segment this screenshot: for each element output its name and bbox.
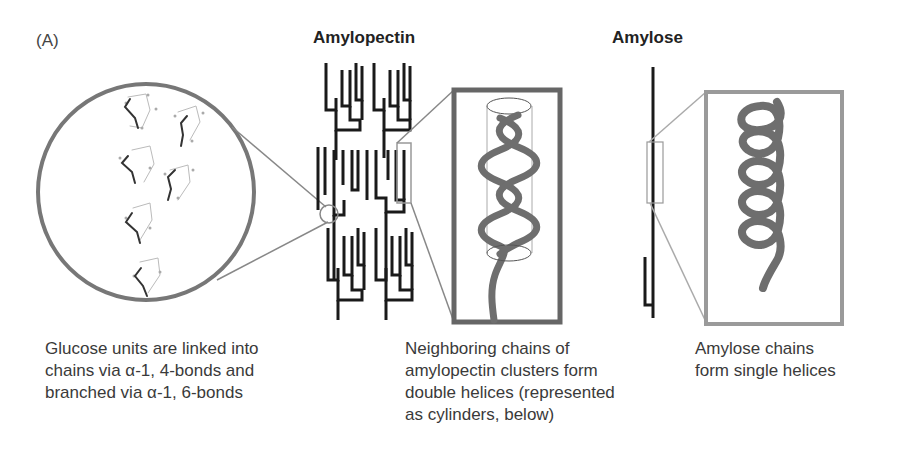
- amylopectin-chains: [318, 63, 412, 320]
- double-helix-caption: Neighboring chains of amylopectin cluste…: [405, 338, 685, 426]
- single-helix-zoom-marker: [647, 142, 663, 203]
- double-helix-panel: [454, 90, 560, 322]
- single-helix-panel: [706, 92, 842, 324]
- amylose-caption: Amylose chains form single helices: [695, 338, 895, 382]
- amylose-chain: [645, 67, 653, 318]
- glucose-caption: Glucose units are linked into chains via…: [45, 338, 345, 404]
- glucose-molecule-icon: [119, 94, 205, 297]
